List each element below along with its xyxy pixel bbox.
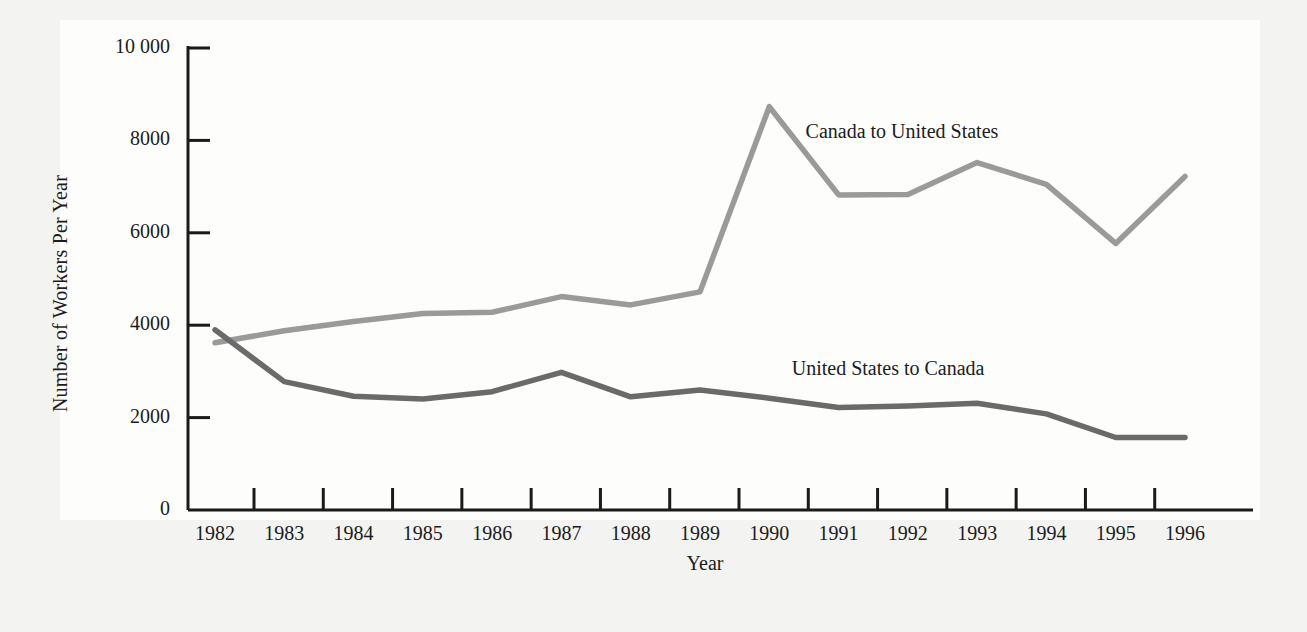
- x-tick-label: 1982: [175, 522, 255, 545]
- x-tick-label: 1993: [937, 522, 1017, 545]
- y-tick-label: 8000: [30, 127, 170, 150]
- x-tick-label: 1984: [314, 522, 394, 545]
- chart-figure: Number of Workers Per Year Year 02000400…: [0, 0, 1307, 632]
- x-tick-label: 1989: [660, 522, 740, 545]
- x-tick-label: 1985: [383, 522, 463, 545]
- x-tick-label: 1990: [729, 522, 809, 545]
- x-tick-label: 1991: [799, 522, 879, 545]
- y-tick-label: 4000: [30, 312, 170, 335]
- x-axis-title: Year: [640, 552, 770, 575]
- x-tick-label: 1992: [868, 522, 948, 545]
- x-tick-label: 1987: [521, 522, 601, 545]
- x-tick-label: 1996: [1145, 522, 1225, 545]
- x-tick-label: 1986: [452, 522, 532, 545]
- x-tick-label: 1995: [1076, 522, 1156, 545]
- x-tick-label: 1983: [244, 522, 324, 545]
- series-label-2: United States to Canada: [792, 357, 985, 380]
- x-tick-label: 1994: [1006, 522, 1086, 545]
- y-tick-label: 10 000: [30, 35, 170, 58]
- series-label-1: Canada to United States: [806, 120, 999, 143]
- x-tick-label: 1988: [591, 522, 671, 545]
- y-tick-label: 0: [30, 497, 170, 520]
- y-tick-label: 6000: [30, 220, 170, 243]
- y-tick-label: 2000: [30, 405, 170, 428]
- y-axis-title: Number of Workers Per Year: [49, 144, 72, 444]
- plot-background: [60, 20, 1260, 520]
